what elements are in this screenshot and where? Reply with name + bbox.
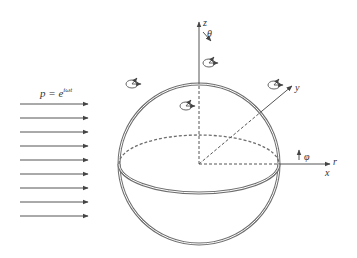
rotation-symbol-icon [268, 79, 283, 89]
z-axis-label: z [202, 17, 207, 28]
incident-wave-label: p = eiωt [39, 86, 73, 99]
phi-label: φ [304, 151, 310, 162]
theta-label: θ [207, 28, 212, 39]
sphere-scattering-diagram: p = eiωt z θ y φ r x [0, 0, 357, 258]
y-axis-label: y [294, 82, 300, 93]
coordinate-axes [199, 22, 330, 164]
x-axis-label: x [324, 167, 330, 178]
rotation-symbol-icon [180, 100, 195, 110]
incident-wave-arrows [20, 104, 88, 216]
r-label: r [333, 156, 337, 167]
rotation-symbol-icon [203, 57, 218, 67]
rotation-symbol-icon [126, 78, 141, 88]
